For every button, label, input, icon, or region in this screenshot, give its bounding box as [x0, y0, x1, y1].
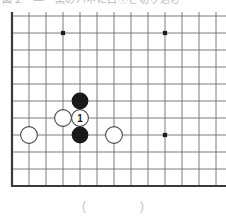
diagram-caption: ( ): [0, 196, 226, 213]
go-board[interactable]: 1: [0, 12, 226, 190]
diagram-header-text: 図２ — 黒のハネに白①と切り込む: [2, 0, 181, 5]
header-strip: 図２ — 黒のハネに白①と切り込む: [0, 0, 226, 11]
board-grid-lines: [12, 12, 226, 186]
white-stone-far-left[interactable]: [21, 127, 38, 144]
star-point-top-left: [61, 31, 65, 35]
black-stone-upper[interactable]: [72, 93, 89, 110]
board-edge-lines: [11, 12, 226, 186]
black-stone-lower[interactable]: [72, 127, 89, 144]
star-point-center-right: [163, 133, 167, 137]
go-board-canvas[interactable]: 1: [0, 12, 226, 190]
star-point-top-right: [163, 31, 167, 35]
move-number-label: 1: [77, 113, 83, 124]
white-stone-left[interactable]: [55, 110, 72, 127]
white-stone-right[interactable]: [106, 127, 123, 144]
